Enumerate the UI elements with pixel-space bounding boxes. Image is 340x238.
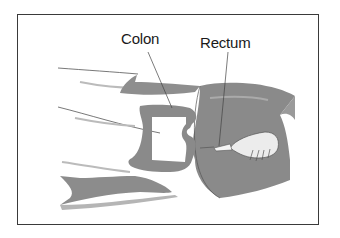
colon-label: Colon xyxy=(121,31,159,46)
colon-shape xyxy=(128,105,196,172)
lower-limb xyxy=(60,176,172,205)
colon-leader-line xyxy=(148,52,172,108)
rectum-label: Rectum xyxy=(200,35,250,50)
upper-limb xyxy=(120,75,200,95)
enema-illustration xyxy=(0,0,340,238)
